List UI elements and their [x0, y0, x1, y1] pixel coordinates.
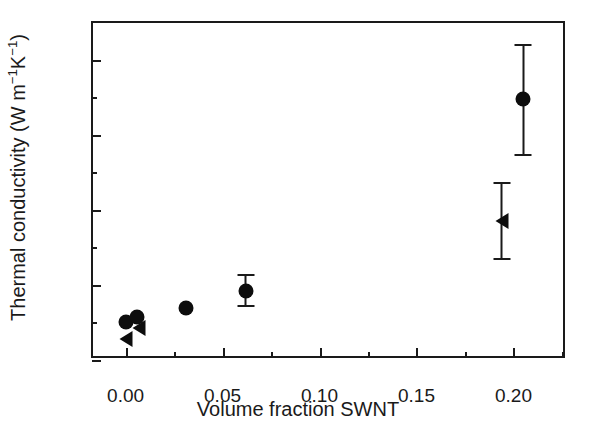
error-bar-cap-bottom [493, 258, 510, 260]
y-tick-major [92, 285, 101, 287]
x-tick-label: 0.10 [301, 385, 338, 407]
data-point-circle [516, 91, 531, 106]
x-tick-major [513, 348, 515, 357]
y-axis-title-exp1: −1 [5, 69, 20, 84]
error-bar-cap-bottom [237, 305, 254, 307]
data-point-circle [178, 301, 193, 316]
error-bar-cap-top [515, 44, 532, 46]
y-tick-minor [92, 97, 97, 99]
plot-area: 0.000.050.100.150.2001234 [91, 21, 565, 358]
x-tick-label: 0.15 [398, 385, 435, 407]
y-tick-minor [92, 172, 97, 174]
x-tick-minor [271, 352, 273, 357]
x-tick-major [416, 348, 418, 357]
data-point-triangle [119, 331, 132, 347]
x-tick-minor [174, 352, 176, 357]
y-tick-major [92, 135, 101, 137]
x-tick-major [126, 348, 128, 357]
data-point-triangle [495, 213, 508, 229]
x-tick-label: 0.05 [204, 385, 241, 407]
x-tick-minor [368, 352, 370, 357]
y-tick-minor [92, 322, 97, 324]
x-tick-label: 0.20 [495, 385, 532, 407]
error-bar-cap-top [237, 274, 254, 276]
y-tick-major [92, 360, 101, 362]
y-axis-title: Thermal conductivity (W m−1K−1) [7, 8, 30, 348]
data-point-circle [238, 283, 253, 298]
data-point-triangle [133, 320, 146, 336]
y-tick-major [92, 60, 101, 62]
y-tick-major [92, 210, 101, 212]
x-tick-minor [465, 352, 467, 357]
x-tick-major [320, 348, 322, 357]
y-axis-title-mid: K [7, 56, 29, 69]
y-axis-title-exp2: −1 [5, 41, 20, 56]
y-tick-minor [92, 247, 97, 249]
x-tick-major [223, 348, 225, 357]
x-tick-minor [562, 352, 564, 357]
error-bar-cap-bottom [515, 154, 532, 156]
y-axis-title-prefix: Thermal conductivity (W m [7, 84, 29, 321]
figure-root: Thermal conductivity (W m−1K−1) Volume f… [0, 0, 596, 441]
error-bar-cap-top [493, 182, 510, 184]
x-tick-label: 0.00 [107, 385, 144, 407]
y-axis-title-suffix: ) [7, 34, 29, 41]
